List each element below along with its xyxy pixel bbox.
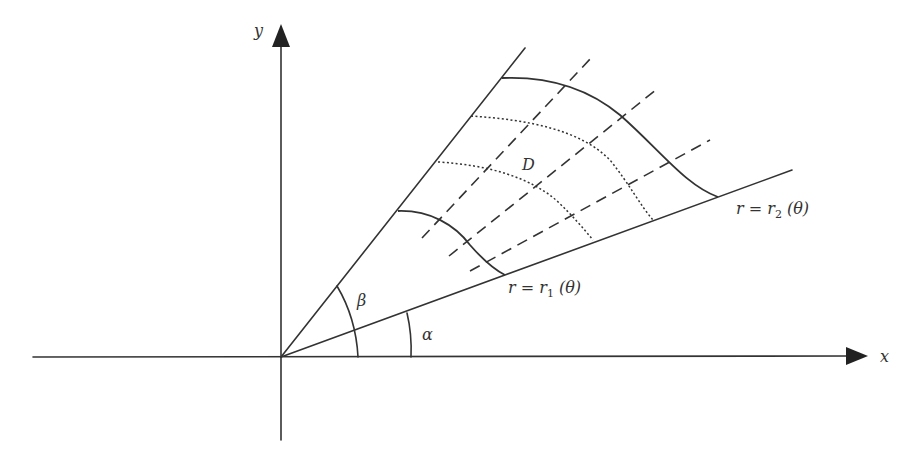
alpha-label: α <box>422 325 433 344</box>
ray-alpha <box>281 170 792 357</box>
ray-beta <box>281 48 525 357</box>
outer-curve-label: r = r2 (θ) <box>736 199 809 221</box>
outer-curve-label-prefix: r = r <box>736 199 776 218</box>
y-axis-arrow-icon <box>272 24 290 47</box>
polar-region-diagram: x y β α D r = r1 (θ) r = r2 (θ) <box>0 0 924 474</box>
alpha-angle-arc <box>407 313 411 357</box>
outer-curve-label-subscript: 2 <box>775 208 782 221</box>
inner-curve-label: r = r1 (θ) <box>508 278 581 300</box>
inner-curve-label-suffix: (θ) <box>554 278 581 297</box>
x-axis-line <box>33 356 852 357</box>
inner-curve-label-prefix: r = r <box>508 278 548 297</box>
x-axis-label: x <box>880 347 889 366</box>
dotted-level-curve-2 <box>438 162 593 240</box>
x-axis: x <box>33 347 889 366</box>
dashed-grid-line-3 <box>470 140 710 271</box>
region-d-label: D <box>521 155 535 174</box>
y-axis: y <box>253 21 290 440</box>
y-axis-label: y <box>253 21 264 40</box>
dotted-level-curve-1 <box>471 116 653 220</box>
beta-label: β <box>356 291 366 310</box>
inner-curve-label-subscript: 1 <box>547 287 554 300</box>
outer-curve-label-suffix: (θ) <box>782 199 809 218</box>
beta-angle-arc <box>337 286 358 357</box>
outer-curve-r2 <box>502 78 718 197</box>
x-axis-arrow-icon <box>846 347 868 365</box>
inner-curve-r1 <box>398 211 505 275</box>
